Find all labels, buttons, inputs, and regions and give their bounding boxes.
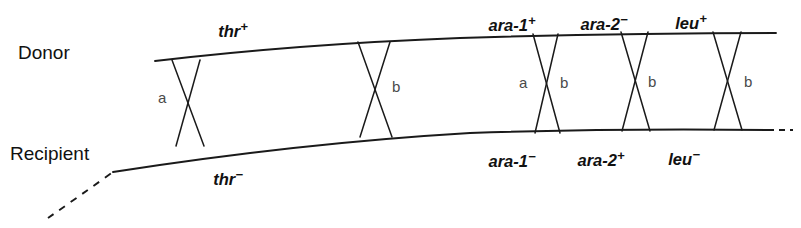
recipient-gene-label-ara-2: ara-2+	[577, 148, 624, 169]
crossover-ara-1: ab	[519, 34, 568, 133]
crossover-ara-1-label-b: b	[560, 74, 568, 91]
crossover-mid-stroke-right	[360, 42, 390, 137]
donor-strand-line	[155, 33, 776, 61]
recipient-gene-label-thr: thr−	[213, 167, 243, 188]
crossover-mid-label-b: b	[392, 78, 400, 95]
crossover-thr-stroke-right	[176, 60, 200, 146]
crossover-leu-label-b: b	[744, 73, 752, 90]
recipient-strand-group	[48, 129, 793, 218]
recipient-gene-label-ara-1: ara-1−	[488, 149, 535, 170]
crossover-ara-1-label-a: a	[519, 74, 528, 91]
recipient-gene-label-leu: leu−	[668, 147, 700, 168]
crossover-ara-2: b	[621, 32, 656, 131]
donor-strand-group	[155, 33, 776, 61]
crossover-ara-1-stroke-right	[535, 34, 558, 133]
donor-gene-label-ara-2: ara-2−	[580, 12, 627, 33]
donor-gene-label-thr: thr+	[218, 19, 248, 40]
recombination-diagram: ababbb thr+ara-1+ara-2−leu+thr−ara-1−ara…	[0, 0, 801, 228]
donor-gene-label-ara-1: ara-1+	[488, 13, 535, 34]
crossover-thr: a	[158, 60, 204, 146]
recipient-strand-lead-dashes	[48, 172, 113, 218]
diagram-canvas: ababbb thr+ara-1+ara-2−leu+thr−ara-1−ara…	[0, 0, 801, 228]
crossover-thr-label-a: a	[158, 89, 167, 106]
donor-gene-label-leu: leu+	[675, 11, 707, 32]
recipient-role-label: Recipient	[10, 143, 90, 164]
crossover-ara-2-label-b: b	[648, 73, 656, 90]
crossover-mid: b	[358, 42, 400, 137]
crossover-leu: b	[713, 32, 752, 130]
donor-role-label: Donor	[18, 42, 70, 63]
